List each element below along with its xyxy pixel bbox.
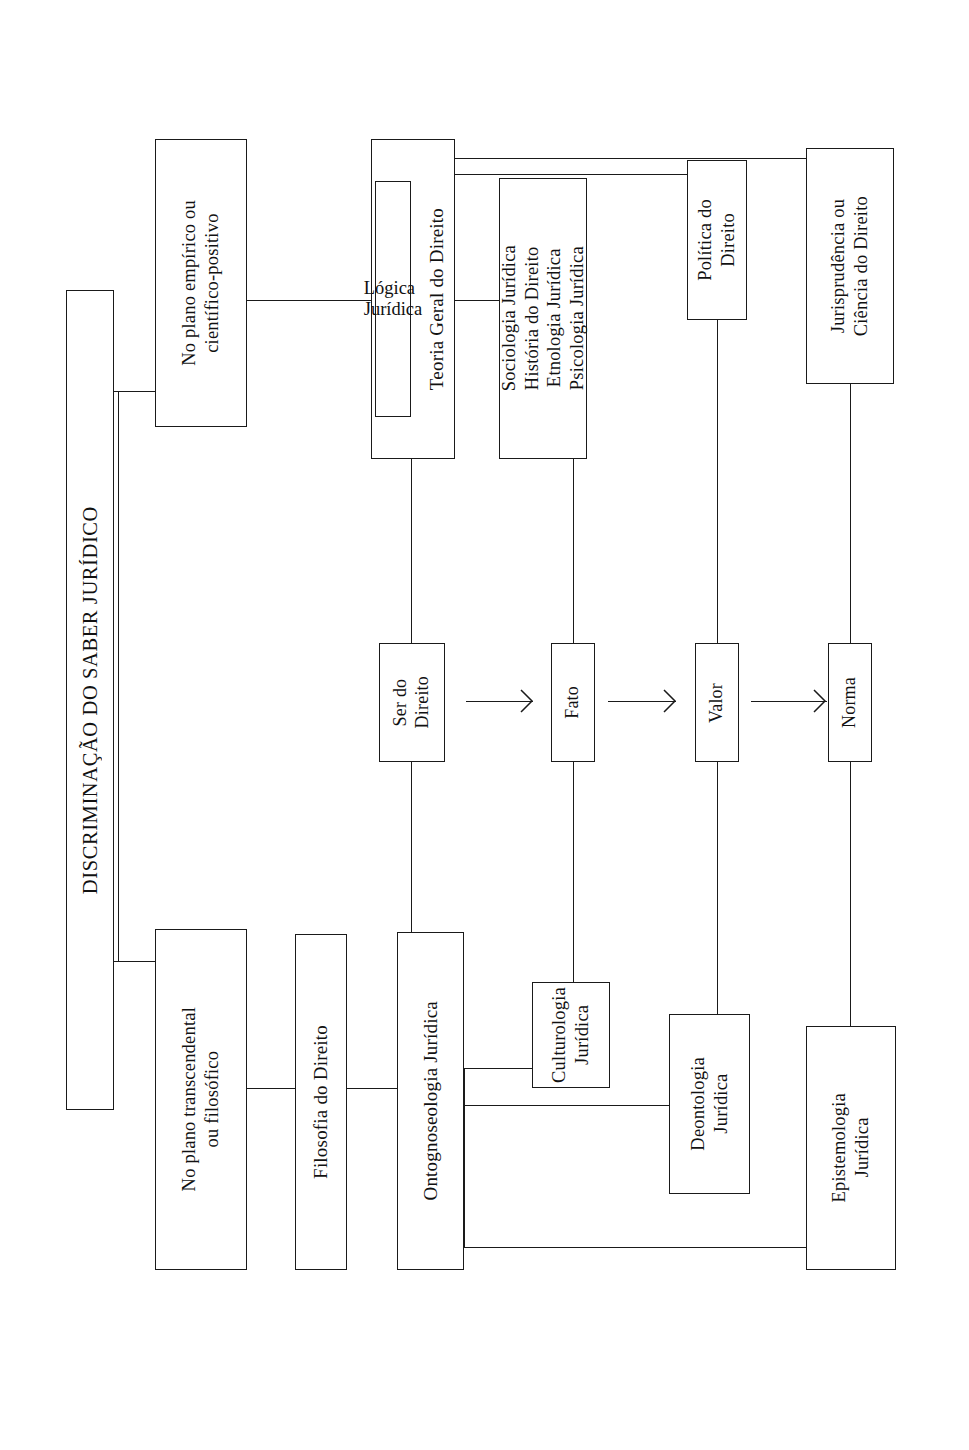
node-teoria-geral-label: Teoria Geral do Direito xyxy=(425,208,448,390)
arrow-head-ser-to-fato xyxy=(519,688,535,714)
connector-norma-to-epistemologia xyxy=(850,762,851,1026)
node-deontologia-juridica[interactable]: Deontologia Jurídica xyxy=(669,1014,750,1194)
node-plano-transcendental-label: No plano transcendental ou filosófico xyxy=(178,1007,223,1191)
connector-ser-to-ontognoseologia xyxy=(411,762,412,932)
node-filosofia-do-direito-label: Filosofia do Direito xyxy=(309,1025,332,1179)
node-fato-label: Fato xyxy=(562,686,584,719)
connector-teoria-to-ser xyxy=(411,459,412,643)
connector-teoria-to-jurisprudencia xyxy=(455,158,809,159)
connector-ontognoseologia-to-deontologia xyxy=(464,1105,669,1106)
node-valor-label: Valor xyxy=(706,683,728,723)
node-root-title-label: DISCRIMINAÇÃO DO SABER JURÍDICO xyxy=(78,506,103,894)
node-deontologia-label: Deontologia Jurídica xyxy=(687,1057,732,1151)
node-ser-do-direito[interactable]: Ser do Direito xyxy=(379,643,445,762)
node-epistemologia-juridica[interactable]: Epistemologia Jurídica xyxy=(806,1026,896,1270)
node-politica-do-direito-label: Política do Direito xyxy=(694,199,739,281)
node-norma[interactable]: Norma xyxy=(828,643,872,762)
connector-root-to-spine-bottom xyxy=(113,961,158,962)
connector-politica-to-valor xyxy=(717,320,718,643)
connector-ontognoseologia-to-epistemologia xyxy=(464,1247,806,1248)
node-jurisprudencia[interactable]: Jurisprudência ou Ciência do Direito xyxy=(806,148,894,384)
connector-transcendental-to-filosofia xyxy=(247,1088,295,1089)
connector-teoria-to-politica xyxy=(455,174,696,175)
node-plano-empirico[interactable]: No plano empírico ou científico-positivo xyxy=(155,139,247,427)
node-plano-empirico-label: No plano empírico ou científico-positivo xyxy=(178,200,223,366)
node-ontognoseologia-juridica[interactable]: Ontognoseologia Jurídica xyxy=(397,932,464,1270)
node-ontognoseologia-label: Ontognoseologia Jurídica xyxy=(419,1001,442,1201)
node-fato[interactable]: Fato xyxy=(551,643,595,762)
node-logica-juridica-label: Lógica Jurídica xyxy=(364,278,423,320)
connector-root-to-spine-top xyxy=(113,391,158,392)
connector-valor-to-deontologia xyxy=(717,762,718,1014)
connector-ontognoseologia-branch-spine xyxy=(464,1068,465,1248)
connector-ontognoseologia-to-culturologia xyxy=(464,1068,532,1069)
node-epistemologia-label: Epistemologia Jurídica xyxy=(828,1093,873,1202)
node-ciencias-juridicas-label: Sociologia Jurídica História do Direito … xyxy=(498,245,588,391)
connector-teoria-to-ciencias xyxy=(455,300,499,301)
connector-filosofia-to-ontognoseologia xyxy=(347,1088,397,1089)
node-logica-juridica[interactable]: Lógica Jurídica xyxy=(375,181,411,417)
connector-ciencias-to-fato xyxy=(573,459,574,643)
node-plano-transcendental[interactable]: No plano transcendental ou filosófico xyxy=(155,929,247,1270)
node-filosofia-do-direito[interactable]: Filosofia do Direito xyxy=(295,934,347,1270)
connector-jurisprudencia-to-norma xyxy=(850,384,851,643)
node-ciencias-juridicas[interactable]: Sociologia Jurídica História do Direito … xyxy=(499,178,587,459)
arrow-head-valor-to-norma xyxy=(812,688,828,714)
node-culturologia-juridica[interactable]: Culturologia Jurídica xyxy=(532,982,610,1088)
node-jurisprudencia-label: Jurisprudência ou Ciência do Direito xyxy=(827,196,872,336)
node-root-title[interactable]: DISCRIMINAÇÃO DO SABER JURÍDICO xyxy=(66,290,114,1110)
diagram-canvas: DISCRIMINAÇÃO DO SABER JURÍDICO No plano… xyxy=(0,0,969,1450)
connector-root-spine xyxy=(118,391,119,962)
node-valor[interactable]: Valor xyxy=(695,643,739,762)
node-ser-do-direito-label: Ser do Direito xyxy=(390,676,434,728)
connector-empirico-to-teoria xyxy=(247,300,371,301)
connector-fato-to-culturologia xyxy=(573,762,574,982)
node-politica-do-direito[interactable]: Política do Direito xyxy=(687,160,747,320)
node-culturologia-label: Culturologia Jurídica xyxy=(548,987,593,1083)
node-norma-label: Norma xyxy=(839,677,861,728)
arrow-head-fato-to-valor xyxy=(662,688,678,714)
